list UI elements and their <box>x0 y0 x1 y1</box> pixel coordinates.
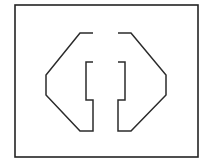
background-fill <box>0 0 211 165</box>
diagram-canvas <box>0 0 211 165</box>
diagram-svg <box>0 0 211 165</box>
